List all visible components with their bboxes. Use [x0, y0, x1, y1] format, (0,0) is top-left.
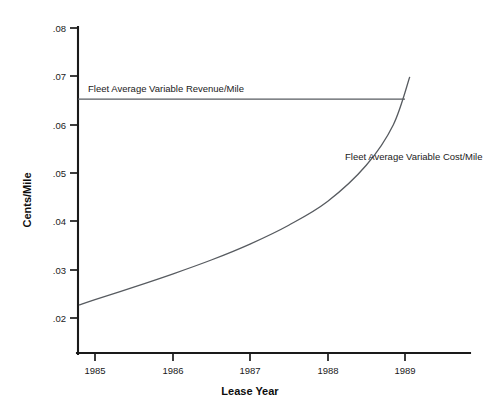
- y-axis: .08 .07 .06 .05 .04 .03 .02 Cents/Mile: [21, 23, 78, 355]
- y-tick-label: .04: [53, 216, 66, 227]
- x-tick-label: 1988: [317, 365, 338, 376]
- x-axis-title: Lease Year: [221, 385, 279, 397]
- y-tick-label: .07: [53, 71, 66, 82]
- revenue-series-annotation: Fleet Average Variable Revenue/Mile: [88, 83, 244, 94]
- y-tick-label: .08: [53, 23, 66, 34]
- x-tick-label: 1986: [162, 365, 183, 376]
- series-revenue: Fleet Average Variable Revenue/Mile: [78, 83, 405, 99]
- y-tick-label: .02: [53, 313, 66, 324]
- chart-container: .08 .07 .06 .05 .04 .03 .02 Cents/Mile 1…: [0, 0, 496, 412]
- line-chart: .08 .07 .06 .05 .04 .03 .02 Cents/Mile 1…: [0, 0, 496, 412]
- x-tick-label: 1989: [394, 365, 415, 376]
- y-tick-label: .05: [53, 168, 66, 179]
- cost-series-annotation: Fleet Average Variable Cost/Mile: [345, 151, 482, 162]
- cost-curve: [80, 77, 410, 305]
- x-tick-label: 1985: [84, 365, 105, 376]
- y-tick-label: .06: [53, 120, 66, 131]
- y-tick-label: .03: [53, 265, 66, 276]
- x-tick-label: 1987: [239, 365, 260, 376]
- x-axis: 1985 1986 1987 1988 1989 Lease Year: [77, 353, 470, 397]
- y-axis-title: Cents/Mile: [21, 172, 33, 227]
- series-cost: Fleet Average Variable Cost/Mile: [80, 77, 483, 305]
